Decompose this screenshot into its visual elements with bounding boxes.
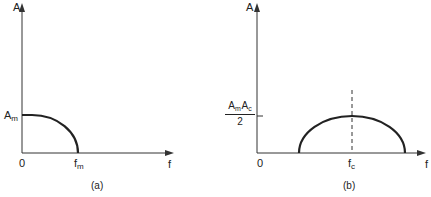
panel-a-axes	[22, 10, 167, 153]
panel-b-caption: (b)	[343, 181, 355, 191]
panel-a-caption: (a)	[91, 181, 103, 191]
panel-b-center-label: fc	[348, 158, 355, 171]
panel-b-y-arrow-icon	[254, 3, 260, 12]
panel-b-x-axis-label: f	[425, 159, 428, 170]
panel-b-origin-label: 0	[257, 158, 263, 169]
panel-b-x-arrow-icon	[417, 150, 426, 156]
panel-a-cutoff-label: fm	[74, 158, 84, 171]
panel-a-spectrum-curve	[22, 115, 78, 153]
panel-b-y-axis-label: A	[246, 2, 253, 13]
panel-a-y-axis-label: A	[13, 2, 20, 13]
spectrum-diagram	[0, 0, 431, 197]
panel-a-level-label: Am	[4, 110, 18, 123]
panel-b-level-label: Am Ac 2	[225, 101, 255, 127]
panel-a-x-axis-label: f	[168, 159, 171, 170]
panel-a-x-arrow-icon	[165, 150, 174, 156]
panel-a-origin-label: 0	[19, 158, 25, 169]
